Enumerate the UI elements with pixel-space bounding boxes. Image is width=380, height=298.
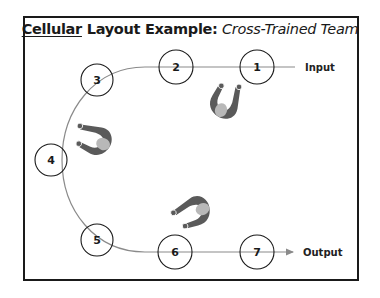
cell-layout-diagram: 1 2 3 4 5 6 7 Input Output [0,0,380,298]
station-label: 5 [93,234,101,247]
station-label: 3 [93,74,101,87]
worker-icon [206,77,246,123]
worker-icon [70,119,116,159]
station-5: 5 [81,224,113,256]
station-label: 4 [47,154,55,167]
station-3: 3 [81,64,113,96]
station-label: 2 [172,61,180,74]
station-label: 1 [253,61,261,74]
station-label: 6 [171,246,179,259]
station-label: 7 [253,246,261,259]
output-label: Output [303,247,343,258]
input-label: Input [305,62,335,73]
worker-icon [168,192,215,234]
